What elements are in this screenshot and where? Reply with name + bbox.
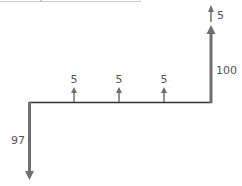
coupon-label: 5 — [71, 73, 78, 86]
principal-arrow — [207, 25, 216, 103]
coupon-arrow — [116, 87, 122, 102]
final-coupon-label: 5 — [217, 9, 224, 22]
coupon-arrow — [71, 87, 77, 102]
final-coupon-arrow — [208, 5, 214, 22]
coupon-arrow — [161, 87, 167, 102]
coupon-label: 5 — [116, 73, 123, 86]
cash-flow-diagram: 97 5 5 5 100 5 — [0, 0, 242, 186]
outflow-label: 97 — [11, 134, 25, 147]
coupon-label: 5 — [161, 73, 168, 86]
outflow-arrow — [25, 102, 34, 180]
principal-label: 100 — [216, 64, 237, 77]
